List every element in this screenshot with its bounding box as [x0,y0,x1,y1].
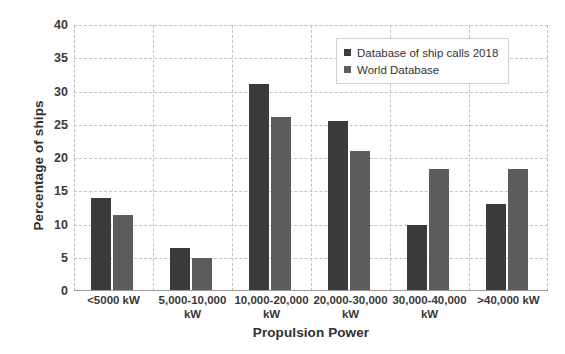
x-tick-label: <5000 kW [74,294,153,308]
bar-chart: Percentage of ships 0510152025303540 <50… [0,0,565,354]
bar [113,215,133,291]
bar [508,169,528,291]
bar [328,121,348,291]
legend-label: World Database [357,64,439,76]
bar-group [74,25,153,291]
y-tick-label: 20 [36,151,68,165]
y-tick-label: 15 [36,184,68,198]
bar [91,198,111,291]
y-tick-label: 35 [36,51,68,65]
bar [407,225,427,291]
x-tick-label: 10,000-20,000 kW [232,294,311,321]
x-tick-label: >40,000 kW [469,294,548,308]
bar [192,258,212,291]
chart-legend: Database of ship calls 2018World Databas… [336,38,509,84]
legend-label: Database of ship calls 2018 [357,47,498,59]
legend-item[interactable]: World Database [344,61,498,78]
y-tick-label: 30 [36,85,68,99]
y-tick-label: 25 [36,118,68,132]
x-tick-label: 5,000-10,000 kW [153,294,232,321]
bar [350,151,370,291]
legend-swatch-icon [344,66,351,73]
bar [271,117,291,291]
x-tick-label: 30,000-40,000 kW [390,294,469,321]
x-tick-label: 20,000-30,000 kW [311,294,390,321]
bar-group [232,25,311,291]
legend-item[interactable]: Database of ship calls 2018 [344,44,498,61]
y-tick-label: 5 [36,251,68,265]
y-axis-tick-labels: 0510152025303540 [36,25,68,291]
x-axis-title: Propulsion Power [74,325,548,340]
bar [486,204,506,291]
y-tick-label: 10 [36,218,68,232]
x-axis-line [74,290,548,291]
bar [429,169,449,291]
bar-group [153,25,232,291]
y-tick-label: 0 [36,284,68,298]
y-tick-label: 40 [36,18,68,32]
bar [249,84,269,291]
bar [170,248,190,291]
legend-swatch-icon [344,49,351,56]
